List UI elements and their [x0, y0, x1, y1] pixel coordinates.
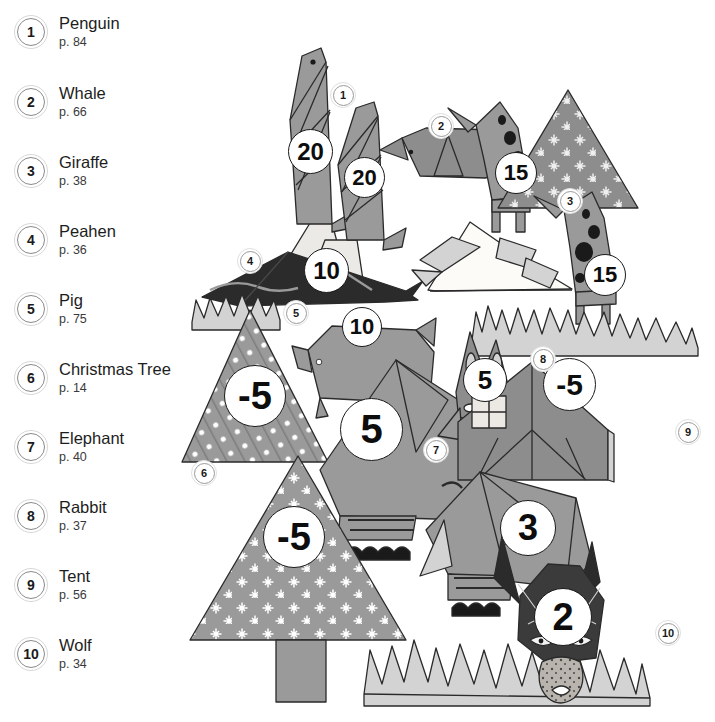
- legend-item-rabbit[interactable]: 8 Rabbit p. 37: [14, 498, 107, 534]
- scene-marker-3[interactable]: 3: [557, 188, 583, 214]
- value-badge-pig: 10: [342, 307, 382, 347]
- value-badge-penguin-right: 20: [344, 157, 385, 198]
- legend-text-block: Penguin p. 84: [59, 14, 120, 50]
- scene-marker-1[interactable]: 1: [330, 82, 356, 108]
- value-badge-elephant-large: 5: [340, 398, 403, 461]
- scene-marker-8[interactable]: 8: [530, 346, 556, 372]
- legend-text-block: Whale p. 66: [59, 84, 106, 120]
- legend-item-peahen[interactable]: 4 Peahen p. 36: [14, 222, 116, 258]
- legend-marker-10: 10: [14, 637, 48, 671]
- legend-item-tent[interactable]: 9 Tent p. 56: [14, 567, 90, 603]
- scene-marker-2[interactable]: 2: [428, 113, 454, 139]
- legend-text-block: Pig p. 75: [59, 291, 87, 327]
- legend-text-block: Tent p. 56: [59, 567, 90, 603]
- legend-marker-8: 8: [14, 499, 48, 533]
- value-badge-giraffe-left: 15: [495, 152, 537, 194]
- value-badge-penguin-left: 20: [288, 129, 333, 174]
- legend-title: Giraffe: [59, 153, 108, 171]
- scene-marker-number: 1: [330, 82, 356, 108]
- legend-text-block: Giraffe p. 38: [59, 153, 108, 189]
- legend-marker-number: 6: [14, 361, 48, 395]
- legend-marker-7: 7: [14, 430, 48, 464]
- legend-marker-6: 6: [14, 361, 48, 395]
- legend-text-block: Elephant p. 40: [59, 429, 124, 465]
- legend-page: p. 75: [59, 311, 87, 327]
- legend-text-block: Rabbit p. 37: [59, 498, 107, 534]
- legend-panel: 1 Penguin p. 84 2 Whale p. 66 3: [0, 0, 190, 722]
- value-badge-christmas-tree-dots: -5: [224, 365, 286, 427]
- legend-page: p. 37: [59, 518, 107, 534]
- legend-marker-number: 5: [14, 292, 48, 326]
- legend-marker-3: 3: [14, 154, 48, 188]
- legend-title: Wolf: [59, 636, 92, 654]
- scene-marker-number: 9: [675, 419, 701, 445]
- legend-page: p. 66: [59, 104, 106, 120]
- scene-marker-number: 6: [191, 460, 217, 486]
- legend-marker-number: 8: [14, 499, 48, 533]
- legend-marker-number: 4: [14, 223, 48, 257]
- scene-marker-5[interactable]: 5: [283, 300, 309, 326]
- scene-marker-number: 8: [530, 346, 556, 372]
- legend-title: Tent: [59, 567, 90, 585]
- legend-text-block: Peahen p. 36: [59, 222, 116, 258]
- value-badge-wolf: 2: [534, 588, 592, 646]
- scene-marker-number: 4: [237, 248, 263, 274]
- origami-scene: 20 20 10 15 15 10 -5 -5 5 3 5 -5 2 1 2 3: [180, 0, 715, 722]
- legend-text-block: Christmas Tree p. 14: [59, 360, 171, 396]
- legend-title: Penguin: [59, 14, 120, 32]
- legend-item-penguin[interactable]: 1 Penguin p. 84: [14, 14, 120, 50]
- legend-marker-number: 9: [14, 568, 48, 602]
- legend-marker-2: 2: [14, 85, 48, 119]
- legend-page: p. 14: [59, 380, 171, 396]
- legend-page: p. 84: [59, 34, 120, 50]
- scene-marker-9[interactable]: 9: [675, 419, 701, 445]
- legend-marker-number: 2: [14, 85, 48, 119]
- legend-title: Whale: [59, 84, 106, 102]
- legend-page: p. 38: [59, 173, 108, 189]
- value-badge-elephant-small: 3: [500, 500, 556, 556]
- legend-page: p. 40: [59, 449, 124, 465]
- value-badge-rabbit: 5: [463, 358, 507, 402]
- value-badge-giraffe-right: 15: [584, 254, 626, 296]
- illustration-page: 1 Penguin p. 84 2 Whale p. 66 3: [0, 0, 715, 722]
- scene-marker-6[interactable]: 6: [191, 460, 217, 486]
- value-badge-christmas-tree-stars: -5: [263, 506, 325, 568]
- legend-title: Christmas Tree: [59, 360, 171, 378]
- legend-page: p. 36: [59, 242, 116, 258]
- legend-item-christmas-tree[interactable]: 6 Christmas Tree p. 14: [14, 360, 171, 396]
- value-badge-peahen: 10: [304, 248, 349, 293]
- legend-marker-4: 4: [14, 223, 48, 257]
- legend-title: Elephant: [59, 429, 124, 447]
- legend-item-whale[interactable]: 2 Whale p. 66: [14, 84, 106, 120]
- legend-marker-number: 3: [14, 154, 48, 188]
- legend-marker-9: 9: [14, 568, 48, 602]
- legend-title: Pig: [59, 291, 87, 309]
- legend-item-giraffe[interactable]: 3 Giraffe p. 38: [14, 153, 108, 189]
- scene-marker-number: 10: [655, 620, 681, 646]
- legend-title: Peahen: [59, 222, 116, 240]
- legend-item-wolf[interactable]: 10 Wolf p. 34: [14, 636, 92, 672]
- legend-item-elephant[interactable]: 7 Elephant p. 40: [14, 429, 124, 465]
- legend-page: p. 34: [59, 656, 92, 672]
- legend-marker-5: 5: [14, 292, 48, 326]
- legend-item-pig[interactable]: 5 Pig p. 75: [14, 291, 87, 327]
- scene-marker-number: 7: [423, 437, 449, 463]
- scene-marker-10[interactable]: 10: [655, 620, 681, 646]
- origami-artwork: [180, 0, 715, 722]
- scene-marker-number: 3: [557, 188, 583, 214]
- scene-marker-7[interactable]: 7: [423, 437, 449, 463]
- grass-right-upper: [472, 306, 698, 356]
- legend-page: p. 56: [59, 587, 90, 603]
- legend-marker-number: 1: [14, 15, 48, 49]
- grass-bottom: [364, 640, 650, 706]
- scene-marker-4[interactable]: 4: [237, 248, 263, 274]
- legend-marker-number: 10: [14, 637, 48, 671]
- legend-marker-number: 7: [14, 430, 48, 464]
- scene-marker-number: 5: [283, 300, 309, 326]
- scene-marker-number: 2: [428, 113, 454, 139]
- legend-title: Rabbit: [59, 498, 107, 516]
- legend-marker-1: 1: [14, 15, 48, 49]
- legend-text-block: Wolf p. 34: [59, 636, 92, 672]
